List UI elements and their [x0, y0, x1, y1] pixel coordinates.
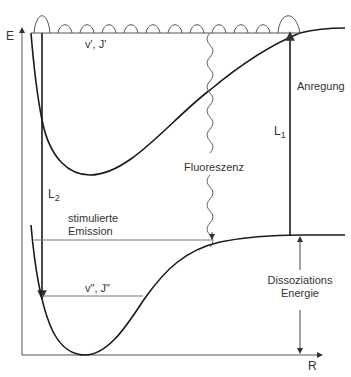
lower-level-label: v", J" [85, 282, 110, 294]
dissociation-label-2: Energie [281, 287, 319, 299]
distance-axis-label: R [308, 359, 317, 373]
dissociation-label-1: Dissoziations [268, 274, 333, 286]
fluorescence-wavy-line [207, 33, 213, 247]
l1-label: L1 [274, 124, 286, 140]
excitation-label: Anregung [297, 80, 345, 92]
fluorescence-label: Fluoreszenz [184, 161, 244, 173]
upper-wavefunction [34, 16, 300, 33]
energy-axis-label: E [6, 29, 14, 43]
stim-emission-label-1: stimulierte [68, 212, 118, 224]
potential-energy-diagram: E R v', J' L2 Fluoreszenz stimulierte Em… [0, 0, 351, 377]
upper-potential-curve [31, 28, 345, 175]
upper-level-label: v', J' [85, 38, 106, 50]
l2-label: L2 [48, 187, 60, 203]
stim-emission-label-2: Emission [68, 225, 113, 237]
